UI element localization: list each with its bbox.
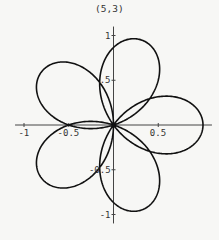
y-tick-label: .5 <box>100 75 111 85</box>
x-tick-label: -1 <box>18 128 29 138</box>
chart-title: (5,3) <box>95 3 124 14</box>
x-tick-label: -0.5 <box>58 128 80 138</box>
rose-curve-chart: (5,3) -1-0.50.51.5-0.5-1 <box>0 0 219 240</box>
y-tick-label: -1 <box>100 210 111 220</box>
y-tick-label: -0.5 <box>89 165 111 175</box>
x-tick-label: 0.5 <box>150 128 166 138</box>
y-tick-label: 1 <box>105 31 110 41</box>
